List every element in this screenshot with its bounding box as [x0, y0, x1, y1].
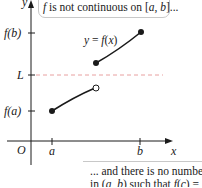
y-axis-arrow-icon [28, 0, 34, 8]
y-axis-label: y [21, 0, 28, 9]
callout-bottom-text: ... and there is no number c in (a, b) s… [90, 165, 202, 187]
callout-top-text: f is not continuous on [a, b]... [43, 1, 178, 13]
callout-bottom-part: ) such that [123, 178, 174, 188]
origin-label: O [17, 143, 26, 157]
callout-bottom-line-1: ... and there is no number c [90, 165, 202, 178]
y-tick-label-fa: f(a) [4, 104, 21, 118]
x-axis-label: x [170, 144, 177, 158]
y-tick-label-fb: f(b) [4, 26, 21, 40]
callout-bottom-part: ... and there is no number [90, 165, 202, 177]
closed-dot-upper-start-icon [93, 60, 99, 66]
callout-top-part: is not continuous on [ [46, 1, 149, 13]
x-tick-label-a: a [49, 144, 55, 158]
curve-label: y = f(x) [83, 34, 118, 47]
callout-bottom-part: in ( [90, 178, 106, 188]
callout-bottom-part: ) = [186, 178, 202, 188]
closed-dot-fb-icon [138, 29, 144, 35]
curve-segment-lower [52, 88, 95, 111]
x-tick-label-b: b [137, 144, 143, 158]
callout-bottom-line-2: in (a, b) such that f(c) = L. [90, 178, 202, 188]
callout-top-part: ]... [166, 1, 178, 13]
y-tick-label-L: L [16, 68, 24, 82]
open-circle-icon [93, 85, 99, 91]
graph-canvas: y x O a b f(b) L f(a) y = f(x) [0, 0, 202, 187]
closed-dot-fa-icon [49, 108, 55, 114]
